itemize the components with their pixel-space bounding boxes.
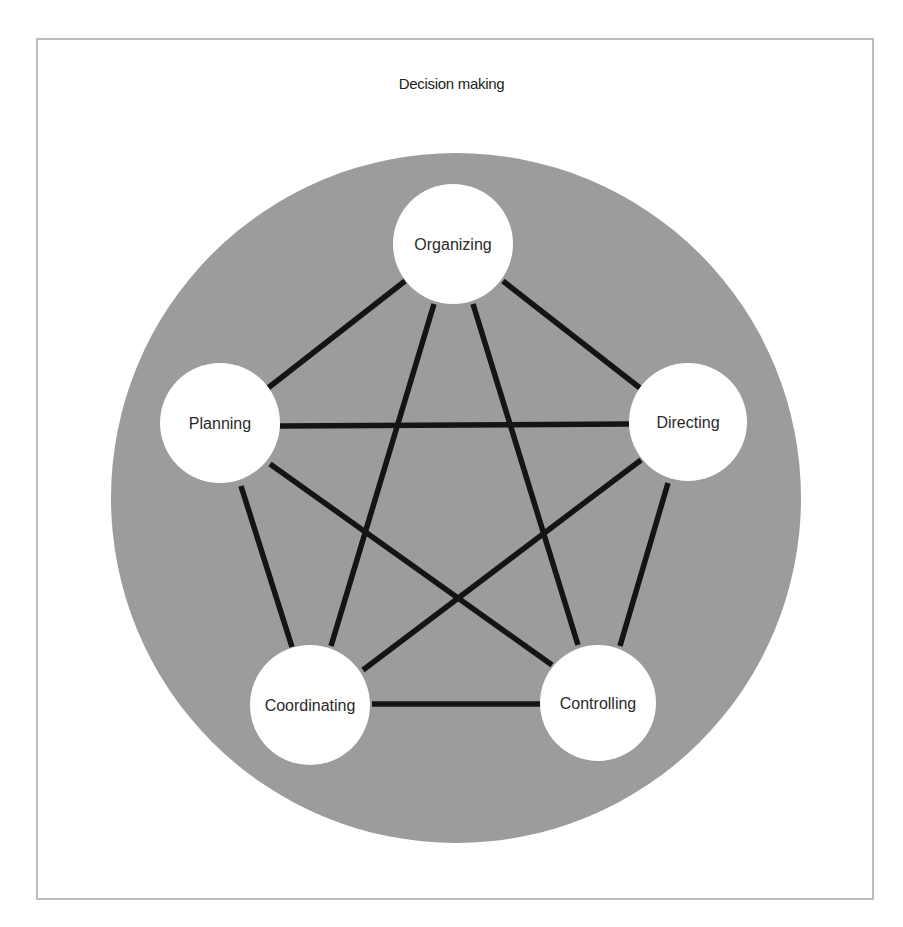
node-label: Planning: [189, 415, 251, 432]
node-controlling: Controlling: [540, 645, 656, 761]
node-coordinating: Coordinating: [250, 645, 370, 765]
decision-making-diagram: Organizing Planning Directing Coordinati…: [0, 0, 903, 927]
node-directing: Directing: [629, 363, 747, 481]
node-label: Organizing: [414, 236, 491, 253]
node-planning: Planning: [160, 363, 280, 483]
node-label: Coordinating: [265, 697, 356, 714]
node-organizing: Organizing: [393, 184, 513, 304]
edge-planning-directing: [280, 424, 629, 426]
node-label: Directing: [656, 414, 719, 431]
node-label: Controlling: [560, 695, 636, 712]
